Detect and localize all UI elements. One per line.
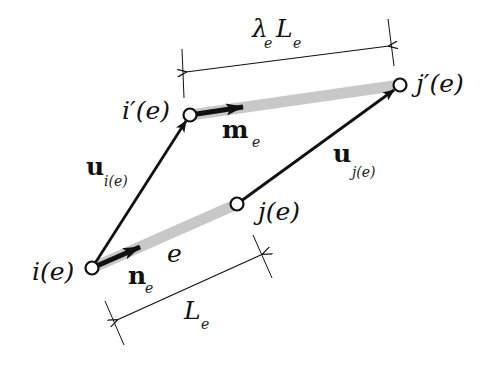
label-vector-n: n	[128, 261, 146, 290]
node-j	[231, 198, 244, 211]
truss-element-diagram: i(e) j(e) i′(e) j′(e) e n e m e u i(e) u…	[0, 0, 492, 368]
dimension-tick-deformed-start	[182, 49, 184, 98]
label-deformed-length-L: L	[275, 14, 293, 43]
label-node-j: j(e)	[253, 197, 300, 226]
label-element-e: e	[167, 239, 182, 268]
dimension-tick-undeformed-start	[105, 301, 124, 345]
label-vector-m-subscript: e	[252, 134, 260, 150]
dimension-tick-undeformed-end	[253, 235, 272, 278]
label-length-L-subscript: e	[201, 316, 209, 332]
label-node-j-prime: j′(e)	[411, 69, 464, 98]
dimension-tick-deformed-end	[388, 19, 394, 66]
node-i	[86, 262, 99, 275]
dimension-line-deformed	[186, 46, 389, 72]
label-deformed-length-L-subscript: e	[293, 35, 301, 51]
label-vector-u-j: u	[333, 139, 351, 168]
node-i-prime	[184, 109, 197, 122]
label-length-L: L	[183, 296, 201, 325]
node-j-prime	[394, 79, 407, 92]
label-vector-m: m	[222, 115, 248, 144]
label-vector-u-i-subscript: i(e)	[104, 173, 128, 189]
label-vector-n-subscript: e	[145, 280, 153, 296]
label-node-i: i(e)	[32, 257, 74, 286]
label-vector-u-i: u	[86, 152, 104, 181]
label-vector-u-j-subscript: j(e)	[349, 164, 376, 180]
label-node-i-prime: i′(e)	[122, 96, 170, 125]
label-lambda-subscript: e	[264, 35, 272, 51]
